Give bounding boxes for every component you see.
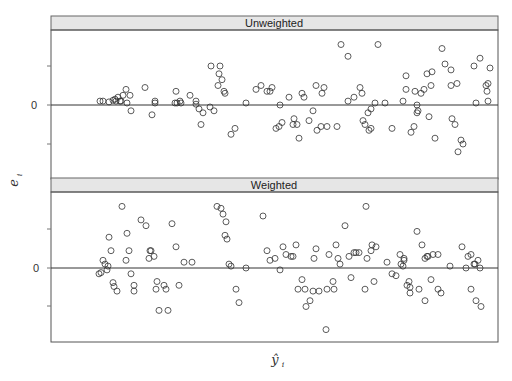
data-point xyxy=(473,298,479,304)
data-point xyxy=(286,94,292,100)
data-point xyxy=(131,288,137,294)
data-point xyxy=(127,92,133,98)
residual-plot: Unweighted 0 Weighted 0 e i ŷ i xyxy=(0,0,512,381)
data-point xyxy=(106,99,112,105)
data-point xyxy=(169,221,175,227)
data-point xyxy=(412,88,418,94)
data-point xyxy=(316,288,322,294)
data-point xyxy=(403,73,409,79)
data-point xyxy=(299,277,305,283)
data-point xyxy=(138,217,144,223)
data-point xyxy=(156,307,162,313)
data-point xyxy=(110,280,116,286)
data-point xyxy=(428,277,434,283)
data-point xyxy=(307,298,313,304)
y-tick-label-zero-upper: 0 xyxy=(31,99,37,111)
data-point xyxy=(189,259,195,265)
data-point xyxy=(455,149,461,155)
data-point xyxy=(151,253,157,259)
data-point xyxy=(294,122,300,128)
data-point xyxy=(310,288,316,294)
data-point xyxy=(106,234,112,240)
data-point xyxy=(143,223,149,229)
data-point xyxy=(442,61,448,67)
plot-frame-weighted xyxy=(51,192,498,342)
data-point xyxy=(233,286,239,292)
data-point xyxy=(359,90,365,96)
data-point xyxy=(448,67,454,73)
strip-label-weighted: Weighted xyxy=(251,179,297,191)
data-point xyxy=(310,108,316,114)
data-point xyxy=(345,53,351,59)
data-point xyxy=(324,124,330,130)
data-point xyxy=(303,304,309,310)
data-point xyxy=(314,127,320,133)
data-point xyxy=(418,90,424,96)
data-point xyxy=(98,270,104,276)
data-point xyxy=(348,275,354,281)
data-point xyxy=(426,114,432,120)
data-point xyxy=(337,261,343,267)
panel-weighted: Weighted 0 xyxy=(33,178,498,342)
data-point xyxy=(468,286,474,292)
data-point xyxy=(223,219,229,225)
data-point xyxy=(429,69,435,75)
data-point xyxy=(114,288,120,294)
data-point xyxy=(408,129,414,135)
data-point xyxy=(119,203,125,209)
data-point xyxy=(321,85,327,91)
data-point xyxy=(165,307,171,313)
data-point xyxy=(128,271,134,277)
data-point xyxy=(416,286,422,292)
data-point xyxy=(452,122,458,128)
data-point xyxy=(220,211,226,217)
data-point xyxy=(335,255,341,261)
data-point xyxy=(187,92,193,98)
panel-unweighted: Unweighted 0 xyxy=(31,16,498,179)
data-point xyxy=(123,86,129,92)
data-point xyxy=(439,46,445,52)
data-point xyxy=(357,85,363,91)
data-point xyxy=(306,118,312,124)
data-point xyxy=(302,286,308,292)
data-point xyxy=(173,244,179,250)
y-tick-label-zero-lower: 0 xyxy=(33,262,39,274)
data-point xyxy=(338,42,344,48)
data-point xyxy=(334,124,340,130)
data-point xyxy=(215,83,221,89)
data-point xyxy=(342,223,348,229)
data-point xyxy=(123,257,129,263)
data-point xyxy=(368,106,374,112)
data-point xyxy=(475,257,481,263)
data-point xyxy=(280,244,286,250)
data-point xyxy=(449,116,455,122)
data-point xyxy=(471,63,477,69)
data-point xyxy=(313,83,319,89)
data-point xyxy=(124,230,130,236)
data-point xyxy=(128,108,134,114)
data-point xyxy=(216,71,222,77)
data-point xyxy=(219,77,225,83)
data-point xyxy=(428,83,434,89)
x-axis-title: ŷ i xyxy=(270,352,284,369)
data-point xyxy=(389,125,395,131)
data-point xyxy=(432,135,438,141)
data-point xyxy=(232,125,238,131)
data-point xyxy=(142,85,148,91)
points-unweighted xyxy=(97,42,493,155)
data-point xyxy=(311,255,317,261)
data-point xyxy=(319,90,325,96)
x-axis-title-sub: i xyxy=(282,360,285,369)
data-point xyxy=(176,282,182,288)
data-point xyxy=(362,286,368,292)
data-point xyxy=(324,286,330,292)
data-point xyxy=(293,242,299,248)
data-point xyxy=(236,300,242,306)
strip-label-unweighted: Unweighted xyxy=(245,17,303,29)
y-axis-title-sub: i xyxy=(15,173,24,176)
data-point xyxy=(477,55,483,61)
data-point xyxy=(422,298,428,304)
data-point xyxy=(120,92,126,98)
data-point xyxy=(228,131,234,137)
data-point xyxy=(258,83,264,89)
